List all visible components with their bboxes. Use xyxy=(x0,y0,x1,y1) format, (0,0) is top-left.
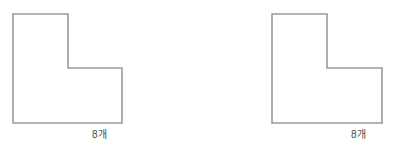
figure-left: 8개 xyxy=(0,0,199,158)
l-shape-right-polygon xyxy=(272,14,382,123)
figure-right: 8개 xyxy=(199,0,398,158)
l-shape-right-svg xyxy=(199,0,398,128)
figure-left-caption: 8개 xyxy=(0,128,199,142)
figure-canvas: 8개 8개 xyxy=(0,0,398,158)
l-shape-left-polygon xyxy=(13,14,122,123)
l-shape-left-svg xyxy=(0,0,199,128)
figure-right-caption: 8개 xyxy=(199,128,398,142)
